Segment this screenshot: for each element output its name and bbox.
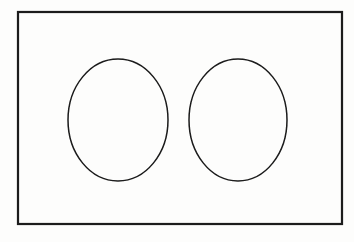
figure-canvas: Rectangle containing two ellipses bbox=[0, 0, 354, 242]
diagram-svg bbox=[0, 0, 354, 242]
canvas-background bbox=[0, 0, 354, 242]
